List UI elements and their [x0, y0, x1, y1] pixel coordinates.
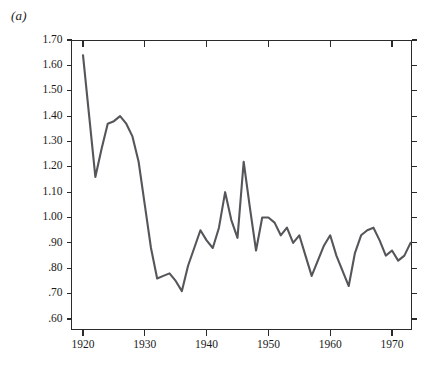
y-tick-label: 1.60 [42, 58, 62, 70]
line-chart: 1.701.601.501.401.301.201.101.00.90.80.7… [0, 0, 431, 373]
y-tick-label: 1.30 [42, 134, 62, 146]
y-tick-label: 1.40 [42, 109, 62, 121]
x-axis-tick-labels: 192019301940195019601970 [72, 338, 404, 350]
y-tick-label: .80 [48, 261, 63, 273]
y-tick-label: .70 [48, 286, 63, 298]
x-tick-label: 1920 [72, 338, 95, 350]
x-axis-ticks [83, 41, 392, 336]
figure-panel-a: (a) 1.701.601.501.401.301.201.101.00.90.… [0, 0, 431, 373]
y-tick-label: 1.70 [42, 33, 62, 45]
x-tick-label: 1940 [195, 338, 218, 350]
data-series-line [83, 55, 411, 291]
y-axis-tick-labels: 1.701.601.501.401.301.201.101.00.90.80.7… [42, 33, 62, 324]
x-tick-label: 1950 [257, 338, 280, 350]
y-tick-label: 1.10 [42, 185, 62, 197]
y-tick-label: 1.00 [42, 210, 62, 222]
y-tick-label: .90 [48, 236, 63, 248]
y-tick-label: 1.20 [42, 159, 62, 171]
y-tick-label: 1.50 [42, 83, 62, 95]
y-tick-label: .60 [48, 312, 63, 324]
x-tick-label: 1970 [381, 338, 404, 350]
x-tick-label: 1960 [319, 338, 342, 350]
x-tick-label: 1930 [133, 338, 156, 350]
